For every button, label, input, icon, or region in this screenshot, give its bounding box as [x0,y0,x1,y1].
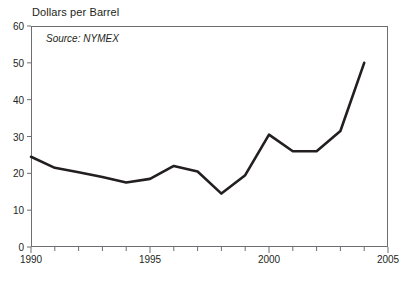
x-tick-label: 2000 [258,254,280,265]
oil-price-chart: Dollars per Barrel Source: NYMEX 0102030… [0,0,402,282]
x-tick-label: 1990 [20,254,42,265]
x-tick-label: 1995 [139,254,161,265]
x-tick-label: 2005 [377,254,399,265]
x-axis-labels: 1990199520002005 [0,0,402,282]
